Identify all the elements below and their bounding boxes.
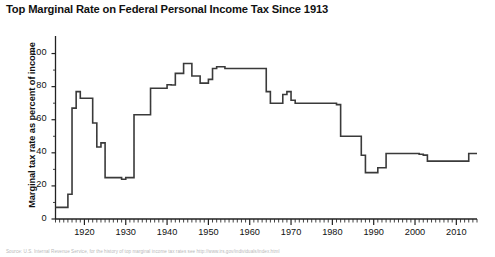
y-tick-label: 80 [21,80,47,90]
source-caption: Source: U.S. Internal Revenue Service, f… [6,249,279,254]
x-tick-label: 1940 [147,227,187,237]
tax-rate-line [56,63,478,207]
axis-lines [56,36,478,219]
y-tick-label: 60 [21,113,47,123]
y-tick-label: 20 [21,179,47,189]
y-tick-label: 0 [21,213,47,223]
y-tick-label: 100 [21,47,47,57]
x-tick-label: 2000 [395,227,435,237]
chart-figure: Top Marginal Rate on Federal Personal In… [0,0,495,257]
plot-area [0,0,495,257]
x-tick-label: 1990 [354,227,394,237]
x-tick-label: 1960 [230,227,270,237]
chart-title: Top Marginal Rate on Federal Personal In… [6,3,328,15]
x-tick-label: 2010 [436,227,476,237]
y-axis-label: Marginal tax rate as percent of income [27,30,37,220]
x-tick-label: 1980 [312,227,352,237]
major-ticks [52,54,457,225]
y-tick-label: 40 [21,146,47,156]
x-tick-label: 1970 [271,227,311,237]
x-tick-label: 1920 [64,227,104,237]
minor-ticks [53,70,477,222]
x-tick-label: 1930 [106,227,146,237]
x-tick-label: 1950 [188,227,228,237]
